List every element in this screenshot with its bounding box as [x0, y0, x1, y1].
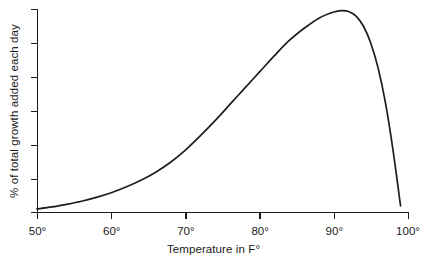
y-axis-title: % of total growth added each day: [8, 4, 20, 218]
x-tick-label: 90°: [326, 225, 343, 237]
x-tick-label: 60°: [103, 225, 120, 237]
y-axis-ticks: [31, 10, 38, 213]
x-axis-ticks: [38, 213, 409, 220]
x-tick-label: 80°: [251, 225, 268, 237]
x-axis-tick-labels: 50° 60° 70° 80° 90° 100°: [29, 225, 420, 237]
x-tick-label: 50°: [29, 225, 46, 237]
x-tick-label: 70°: [177, 225, 194, 237]
x-tick-label: 100°: [396, 225, 420, 237]
growth-rate-curve: [37, 11, 401, 209]
x-axis-title: Temperature in F°: [0, 243, 427, 255]
plot-area: 50° 60° 70° 80° 90° 100°: [0, 0, 427, 266]
chart-figure: 50° 60° 70° 80° 90° 100° Temperature in …: [0, 0, 427, 266]
